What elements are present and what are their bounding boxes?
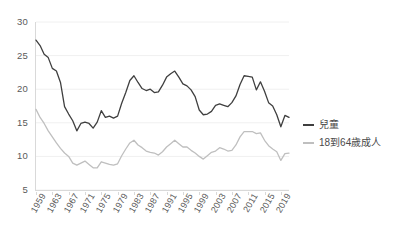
legend-line-swatch — [303, 142, 314, 144]
y-axis-tick-label: 15 — [17, 118, 28, 128]
x-axis-tick-label: 1979 — [111, 192, 129, 215]
x-axis-tick-label: 2011 — [242, 192, 260, 214]
y-axis-tick-label: 10 — [17, 152, 28, 162]
line-chart: 30252015105 1959196319671971197519791983… — [0, 0, 406, 226]
x-axis-tick-label: 1959 — [30, 192, 48, 215]
y-axis-tick-label: 20 — [17, 84, 28, 94]
series-line-children — [36, 40, 289, 131]
x-axis-tick-label: 2003 — [209, 192, 227, 215]
x-axis-tick-label: 1975 — [95, 192, 113, 215]
y-axis: 30252015105 — [0, 22, 32, 190]
plot-area — [36, 22, 289, 190]
x-axis-tick-label: 2019 — [274, 192, 292, 215]
plot-svg — [36, 22, 289, 190]
x-axis-tick-label: 1991 — [160, 192, 178, 215]
x-axis-tick-label: 2015 — [258, 192, 276, 215]
x-axis-tick-label: 1999 — [193, 192, 211, 215]
legend-label: 18到64歲成人 — [319, 138, 381, 148]
x-axis-tick-label: 1995 — [176, 192, 194, 215]
legend-item-adults[interactable]: 18到64歲成人 — [303, 134, 403, 152]
y-axis-tick-label: 30 — [17, 17, 28, 27]
x-axis: 1959196319671971197519791983198719911995… — [36, 192, 289, 226]
x-axis-tick-label: 1963 — [46, 192, 64, 215]
chart-legend: 兒童18到64歲成人 — [303, 116, 403, 152]
x-axis-tick-label: 1971 — [79, 192, 97, 215]
x-axis-tick-label: 2007 — [225, 192, 243, 215]
x-axis-tick-label: 1987 — [144, 192, 162, 215]
gridlines — [36, 22, 289, 190]
y-axis-tick-label: 25 — [17, 51, 28, 61]
legend-label: 兒童 — [319, 120, 339, 130]
y-axis-tick-label: 5 — [23, 185, 28, 195]
legend-item-children[interactable]: 兒童 — [303, 116, 403, 134]
x-axis-tick-label: 1967 — [62, 192, 80, 215]
series-line-adults — [36, 109, 289, 167]
legend-line-swatch — [303, 124, 314, 126]
series-group — [36, 40, 289, 168]
x-axis-tick-label: 1983 — [128, 192, 146, 215]
